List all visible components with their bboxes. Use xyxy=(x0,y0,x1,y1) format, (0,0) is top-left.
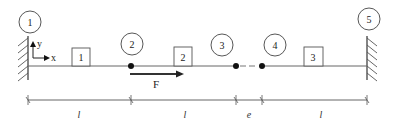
svg-text:1: 1 xyxy=(79,52,84,63)
dimension-label-4: l xyxy=(320,109,323,120)
svg-text:1: 1 xyxy=(28,17,33,28)
node-5-label: 5 xyxy=(358,8,380,30)
y-axis-arrow-icon xyxy=(30,41,36,47)
node-3-label: 3 xyxy=(211,34,233,56)
beam-diagram: 1 2 3 4 5 1 2 3 y x F xyxy=(0,0,397,125)
node-2-label: 2 xyxy=(121,33,143,55)
force-arrow-head-icon xyxy=(176,71,184,78)
dimension-line xyxy=(26,95,369,105)
coordinate-axes: y x xyxy=(30,38,56,63)
right-wall-support xyxy=(367,36,377,81)
node-2-dot xyxy=(128,63,134,69)
x-axis-arrow-icon xyxy=(44,55,50,61)
element-1-box: 1 xyxy=(72,48,90,66)
element-2-box: 2 xyxy=(174,47,192,66)
dimension-label-3: e xyxy=(247,109,252,120)
element-3-box: 3 xyxy=(304,47,323,66)
y-axis-label: y xyxy=(37,38,42,49)
svg-text:5: 5 xyxy=(367,14,372,25)
dimension-label-1: l xyxy=(78,109,81,120)
svg-text:2: 2 xyxy=(181,52,186,63)
node-4-dot xyxy=(259,63,265,69)
svg-text:3: 3 xyxy=(311,52,316,63)
node-4-label: 4 xyxy=(264,34,286,56)
left-wall-support xyxy=(18,36,28,81)
svg-text:3: 3 xyxy=(220,40,225,51)
svg-text:4: 4 xyxy=(273,40,278,51)
node-3-dot xyxy=(233,63,239,69)
force-label: F xyxy=(153,78,159,90)
svg-text:2: 2 xyxy=(130,39,135,50)
node-1-label: 1 xyxy=(19,11,41,33)
x-axis-label: x xyxy=(51,52,56,63)
dimension-label-2: l xyxy=(184,109,187,120)
force-arrow: F xyxy=(130,71,184,91)
